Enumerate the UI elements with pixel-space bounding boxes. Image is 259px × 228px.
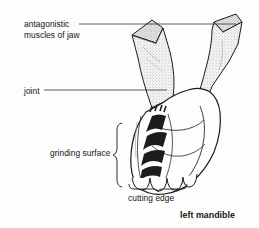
label-antagonistic-line2: muscles of jaw [24,30,80,41]
label-grinding-surface: grinding surface [50,148,110,159]
grinding-surface-brace [113,123,122,187]
label-joint: joint [24,86,40,97]
label-antagonistic-line1: antagonistic [24,19,80,30]
label-cutting-edge: cutting edge [128,193,174,204]
left-muscle [132,20,174,108]
label-antagonistic-muscles: antagonistic muscles of jaw [24,19,80,40]
figure-caption-left-mandible: left mandible [180,210,235,221]
mandible-diagram: antagonistic muscles of jaw joint grindi… [0,0,259,228]
